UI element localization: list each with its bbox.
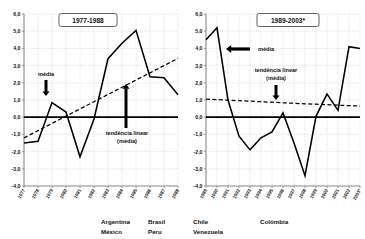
y-axis-tick-label: 2,0	[195, 80, 202, 86]
arrow-shaft	[231, 47, 250, 50]
y-axis-tick-label: 2,0	[13, 80, 20, 86]
y-axis-tick-label: 1,0	[195, 97, 202, 103]
arrow-shaft	[125, 89, 128, 128]
x-axis-tick-label: 1983	[101, 188, 110, 200]
y-axis-tick-label: -2,0	[12, 149, 21, 155]
y-axis-tick-label: 1,0	[13, 97, 20, 103]
y-axis-tick-label: 5,0	[195, 28, 202, 34]
x-axis-tick-label: 1996	[276, 188, 285, 200]
x-axis-tick-label: 1997	[287, 188, 296, 200]
x-axis-tick-label: 1998	[298, 188, 307, 200]
arrow-head	[226, 45, 231, 53]
x-axis-tick-label: 1979	[45, 188, 54, 200]
x-axis-tick-label: 1988	[171, 188, 180, 200]
annotation-media-label-right: média	[258, 46, 275, 52]
x-axis-tick-label: 1985	[129, 188, 138, 200]
annotation-media-label-left: média	[38, 71, 55, 77]
x-axis-tick-label: 2002	[342, 188, 351, 200]
arrow-head	[42, 91, 49, 96]
y-axis-tick-label: 3,0	[13, 63, 20, 69]
y-axis-tick-label: 5,0	[13, 28, 20, 34]
y-axis-tick-label: 0,0	[195, 114, 202, 120]
chart-svg-right: -4,0-3,0-2,0-1,00,01,02,03,04,05,06,0198…	[184, 0, 365, 239]
y-axis-tick-label: -2,0	[194, 149, 203, 155]
annotation-trend-label-line2-right: (média)	[266, 75, 286, 81]
x-axis-tick-label: 1993	[243, 188, 252, 200]
x-axis-tick-label: 1982	[87, 188, 96, 200]
y-axis-tick-label: 3,0	[195, 63, 202, 69]
annotation-media-arrow-left	[42, 80, 49, 96]
chart-title-1989-2003: 1989-2003*	[257, 14, 319, 27]
y-axis-tick-label: -1,0	[12, 131, 21, 137]
x-axis-tick-label: 1990	[210, 188, 219, 200]
x-axis-tick-label: 1977	[17, 188, 26, 200]
annotation-trend-label-line1-left: tendência linear	[106, 130, 149, 136]
arrow-shaft	[45, 80, 48, 92]
x-axis-tick-label: 1994	[254, 188, 263, 200]
y-axis-tick-label: -3,0	[194, 166, 203, 172]
x-axis-tick-label: 2003*	[352, 188, 362, 201]
y-axis-tick-label: 6,0	[13, 11, 20, 17]
x-axis-tick-label: 1978	[31, 188, 40, 200]
x-axis-tick-label: 1992	[232, 188, 241, 200]
x-axis-tick-label: 1987	[157, 188, 166, 200]
annotation-trend-label-line1-right: tendência linear	[255, 67, 298, 73]
chart-panel-1989-2003: -4,0-3,0-2,0-1,00,01,02,03,04,05,06,0198…	[184, 0, 365, 239]
x-axis-tick-label: 2000	[320, 188, 329, 200]
annotation-trend-arrow-right	[272, 85, 279, 100]
x-axis-tick-label: 1986	[143, 188, 152, 200]
x-axis-tick-label: 1984	[115, 188, 124, 200]
arrow-head	[272, 95, 279, 100]
x-axis-tick-label: 1991	[221, 188, 230, 200]
annotation-media-arrow-right	[226, 45, 250, 53]
x-axis-tick-label: 1999	[309, 188, 318, 200]
chart-title-label: 1977-1988	[72, 17, 104, 24]
x-axis-tick-label: 2001	[331, 188, 340, 200]
chart-svg-left: -4,0-3,0-2,0-1,00,01,02,03,04,05,06,0197…	[0, 0, 184, 239]
chart-title-label: 1989-2003*	[271, 17, 306, 24]
y-axis-tick-label: -4,0	[12, 183, 21, 189]
y-axis-tick-label: 4,0	[195, 45, 202, 51]
annotation-trend-arrow-left	[122, 84, 129, 128]
chart-title-1977-1988: 1977-1988	[59, 14, 117, 27]
y-axis-tick-label: 6,0	[195, 11, 202, 17]
y-axis-tick-label: 0,0	[13, 114, 20, 120]
y-axis-tick-label: -4,0	[194, 183, 203, 189]
y-axis-tick-label: -3,0	[12, 166, 21, 172]
annotation-trend-label-line2-left: (média)	[117, 138, 137, 144]
x-axis-tick-label: 1980	[59, 188, 68, 200]
y-axis-tick-label: 4,0	[13, 45, 20, 51]
y-axis-tick-label: -1,0	[194, 131, 203, 137]
chart-panel-1977-1988: -4,0-3,0-2,0-1,00,01,02,03,04,05,06,0197…	[0, 0, 184, 239]
x-axis-tick-label: 1995	[265, 188, 274, 200]
x-axis-tick-label: 1981	[73, 188, 82, 200]
arrow-shaft	[275, 85, 278, 96]
x-axis-tick-label: 1989	[199, 188, 208, 200]
two-panel-line-chart-figure: -4,0-3,0-2,0-1,00,01,02,03,04,05,06,0197…	[0, 0, 365, 239]
